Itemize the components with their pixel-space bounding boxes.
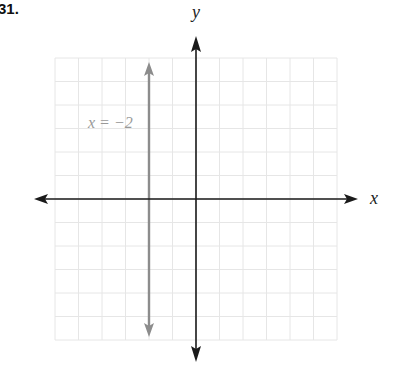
y-axis-label: y xyxy=(190,2,200,22)
axes xyxy=(34,36,358,362)
line-equation-label: x = −2 xyxy=(87,114,133,131)
x-axis-label: x xyxy=(369,188,378,208)
coordinate-plane: x y x = −2 xyxy=(0,0,401,380)
